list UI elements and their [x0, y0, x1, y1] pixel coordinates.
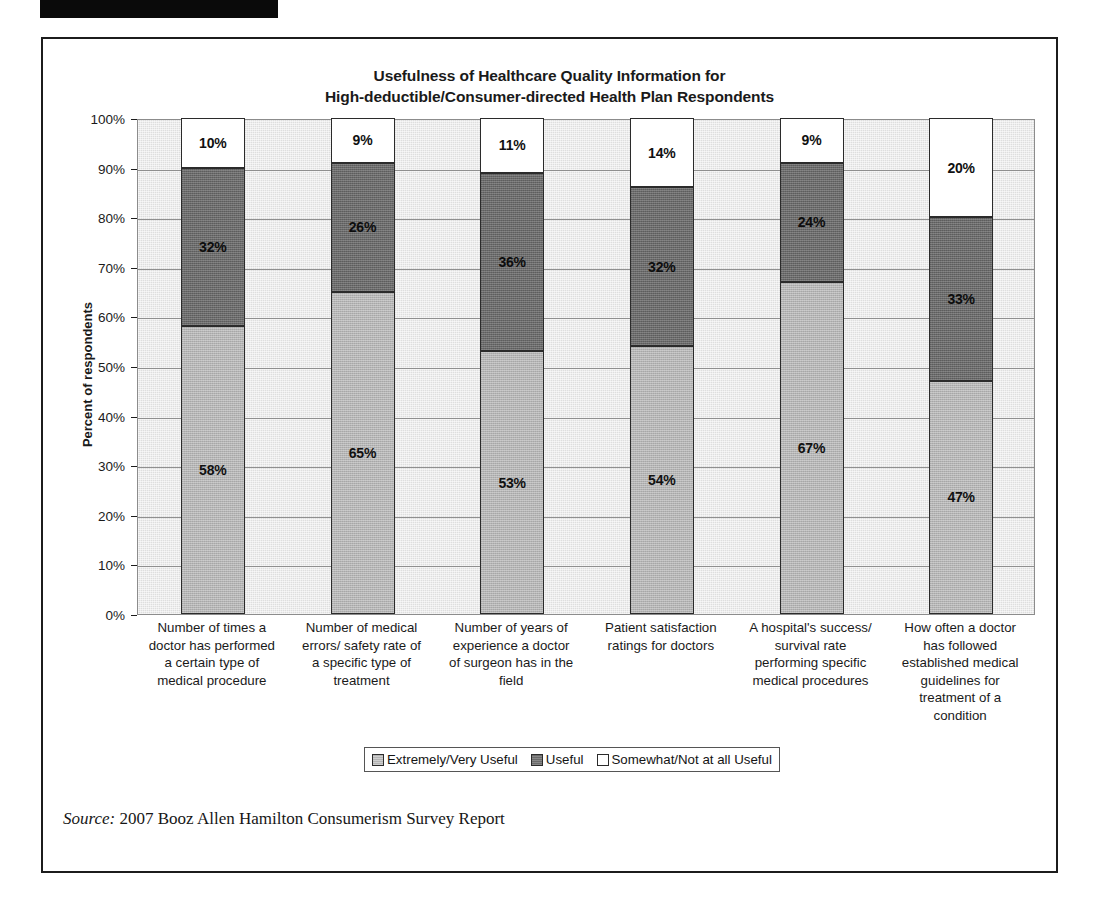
bar-segment[interactable]: 32% [630, 187, 694, 346]
bar-segment[interactable]: 9% [780, 118, 844, 163]
bar-group[interactable]: 47%33%20% [929, 118, 993, 614]
gridline [138, 368, 1034, 369]
bar-group[interactable]: 53%36%11% [480, 118, 544, 614]
gridline [138, 318, 1034, 319]
y-axis-title: Percent of respondents [80, 265, 95, 485]
bar-segment[interactable]: 24% [780, 163, 844, 282]
bar-segment[interactable]: 26% [331, 163, 395, 292]
x-axis-category-label-line: doctor has performed [137, 637, 287, 655]
x-axis-category-label-line: survival rate [736, 637, 886, 655]
x-axis-category-label-line: established medical [885, 654, 1035, 672]
bar-segment-value-label: 65% [349, 445, 376, 461]
bar-group[interactable]: 67%24%9% [780, 118, 844, 614]
gridline [138, 517, 1034, 518]
x-axis-category-label-line: treatment [287, 672, 437, 690]
x-axis-category-label-line: of surgeon has in the [436, 654, 586, 672]
bar-segment-value-label: 10% [199, 135, 226, 151]
bar-group[interactable]: 54%32%14% [630, 118, 694, 614]
x-axis-category-label-line: a certain type of [137, 654, 287, 672]
bar-segment-value-label: 58% [199, 462, 226, 478]
chart-title: Usefulness of Healthcare Quality Informa… [43, 65, 1056, 107]
x-axis-category-label: Patient satisfactionratings for doctors [586, 619, 736, 654]
bar-segment[interactable]: 14% [630, 118, 694, 187]
y-axis-tick-label: 20% [67, 508, 125, 523]
bar-segment[interactable]: 33% [929, 217, 993, 381]
legend-swatch-icon [597, 754, 609, 766]
bar-segment[interactable]: 10% [181, 118, 245, 168]
x-axis-category-label-line: performing specific [736, 654, 886, 672]
x-axis-category-label-line: ratings for doctors [586, 637, 736, 655]
y-axis-tick-label: 80% [67, 211, 125, 226]
x-axis-category-label: How often a doctorhas followedestablishe… [885, 619, 1035, 725]
y-axis-tick-label: 100% [67, 112, 125, 127]
bar-segment-value-label: 24% [798, 214, 825, 230]
x-axis-category-label-line: Number of times a [137, 619, 287, 637]
bar-segment-value-label: 36% [498, 254, 525, 270]
x-axis-category-label-line: A hospital's success/ [736, 619, 886, 637]
chart-legend: Extremely/Very UsefulUsefulSomewhat/Not … [364, 747, 780, 772]
bar-segment-value-label: 14% [648, 145, 675, 161]
gridline [138, 467, 1034, 468]
y-axis-tick-label: 70% [67, 260, 125, 275]
y-axis-tick-label: 90% [67, 161, 125, 176]
bar-segment-value-label: 32% [648, 259, 675, 275]
x-axis-category-label-line: How often a doctor [885, 619, 1035, 637]
bar-segment[interactable]: 32% [181, 168, 245, 327]
x-axis-category-label-line: condition [885, 707, 1035, 725]
x-axis-category-label-line: medical procedure [137, 672, 287, 690]
legend-label: Somewhat/Not at all Useful [612, 752, 772, 767]
x-axis-category-label-line: has followed [885, 637, 1035, 655]
bar-segment-value-label: 53% [498, 475, 525, 491]
x-axis-category-label: Number of years ofexperience a doctorof … [436, 619, 586, 689]
bar-segment-value-label: 26% [349, 219, 376, 235]
bar-segment[interactable]: 53% [480, 351, 544, 614]
y-axis-tick-label: 50% [67, 360, 125, 375]
bar-segment[interactable]: 47% [929, 381, 993, 614]
x-axis-category-label-line: errors/ safety rate of [287, 637, 437, 655]
legend-item[interactable]: Somewhat/Not at all Useful [597, 752, 772, 767]
bar-segment-value-label: 9% [802, 132, 822, 148]
bar-segment[interactable]: 11% [480, 118, 544, 173]
legend-swatch-icon [372, 754, 384, 766]
y-axis-tick-label: 60% [67, 310, 125, 325]
y-axis-tick-label: 10% [67, 558, 125, 573]
bar-group[interactable]: 58%32%10% [181, 118, 245, 614]
bar-segment[interactable]: 20% [929, 118, 993, 217]
bar-segment[interactable]: 54% [630, 346, 694, 614]
source-note: Source: 2007 Booz Allen Hamilton Consume… [63, 809, 505, 829]
source-label: Source: [63, 809, 115, 828]
redaction-bar [40, 0, 278, 18]
bar-segment-value-label: 47% [947, 489, 974, 505]
bar-segment[interactable]: 67% [780, 282, 844, 614]
legend-label: Extremely/Very Useful [387, 752, 518, 767]
x-axis-category-label-line: experience a doctor [436, 637, 586, 655]
x-axis-category-label-line: Number of years of [436, 619, 586, 637]
bar-segment-value-label: 67% [798, 440, 825, 456]
bar-segment[interactable]: 58% [181, 326, 245, 614]
x-axis-category-label-line: a specific type of [287, 654, 437, 672]
legend-swatch-icon [531, 754, 543, 766]
bar-segment-value-label: 9% [353, 132, 373, 148]
bar-group[interactable]: 65%26%9% [331, 118, 395, 614]
chart-title-line-2: High-deductible/Consumer-directed Health… [43, 86, 1056, 107]
bar-segment[interactable]: 9% [331, 118, 395, 163]
gridline [138, 170, 1034, 171]
legend-label: Useful [546, 752, 584, 767]
bar-segment[interactable]: 36% [480, 173, 544, 352]
gridline [138, 219, 1034, 220]
x-axis-category-label-line: Number of medical [287, 619, 437, 637]
chart-title-line-1: Usefulness of Healthcare Quality Informa… [43, 65, 1056, 86]
legend-item[interactable]: Useful [531, 752, 584, 767]
x-axis-category-label-line: guidelines for [885, 672, 1035, 690]
x-axis-category-label: A hospital's success/survival rateperfor… [736, 619, 886, 689]
y-axis-tick-label: 30% [67, 459, 125, 474]
bar-segment-value-label: 20% [947, 160, 974, 176]
x-axis-category-label-line: Patient satisfaction [586, 619, 736, 637]
gridline [138, 418, 1034, 419]
legend-item[interactable]: Extremely/Very Useful [372, 752, 518, 767]
x-axis-category-label-line: field [436, 672, 586, 690]
bar-segment[interactable]: 65% [331, 292, 395, 614]
bar-segment-value-label: 54% [648, 472, 675, 488]
x-axis-category-label: Number of medicalerrors/ safety rate ofa… [287, 619, 437, 689]
source-text: 2007 Booz Allen Hamilton Consumerism Sur… [115, 809, 505, 828]
